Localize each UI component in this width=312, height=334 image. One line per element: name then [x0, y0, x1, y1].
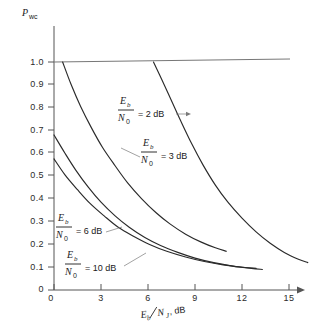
- annotation-2db-numerator: E: [119, 95, 126, 106]
- curve-6db: [54, 135, 262, 270]
- annotation-6db-denominator-subscript: 0: [64, 235, 68, 242]
- y-tick-label-7: 0.7: [30, 125, 44, 135]
- curve-2db: [153, 62, 307, 263]
- x-axis-arrow-icon: [297, 287, 305, 294]
- x-axis-tick-labels: 0 3 6 9 12 15: [48, 293, 294, 303]
- annotation-3db-value: = 3 dB: [161, 151, 187, 161]
- x-axis-ticks: [54, 284, 289, 290]
- annotation-10db-numerator-subscript: b: [74, 255, 78, 263]
- x-axis-title-unit: , dB: [169, 305, 186, 317]
- annotation-3db-leader: [121, 148, 140, 157]
- y-axis-label-subscript: wc: [28, 13, 38, 20]
- annotation-6db: E b N 0 = 6 dB: [55, 212, 122, 242]
- y-tick-label-2: 0.2: [30, 239, 44, 249]
- x-tick-label-0: 0: [48, 293, 53, 303]
- y-tick-label-4: 0.4: [30, 193, 44, 203]
- annotation-10db-denominator: N: [64, 266, 73, 277]
- annotation-10db-value: = 10 dB: [85, 263, 116, 273]
- curve-10db: [54, 159, 256, 268]
- annotation-10db-numerator: E: [66, 249, 73, 260]
- y-tick-label-1: 0.1: [30, 262, 44, 272]
- y-tick-label-6: 0.6: [30, 147, 44, 157]
- x-tick-label-9: 9: [192, 293, 197, 303]
- annotation-2db-value: = 2 dB: [138, 109, 164, 119]
- annotation-3db-numerator-subscript: b: [150, 143, 154, 151]
- y-axis-label-symbol: P: [21, 7, 28, 18]
- annotation-6db-value: = 6 dB: [76, 226, 102, 236]
- y-axis-tick-labels: 1.0 0.9 0.8 0.7 0.6 0.5 0.4 0.3 0.2 0.1 …: [30, 57, 44, 294]
- annotation-3db: E b N 0 = 3 dB: [121, 137, 187, 167]
- x-tick-label-15: 15: [284, 293, 295, 303]
- y-tick-label-8: 0.8: [30, 102, 44, 112]
- annotation-2db-denominator: N: [117, 112, 126, 123]
- annotation-6db-numerator-subscript: b: [65, 218, 69, 226]
- x-tick-label-3: 3: [98, 293, 103, 303]
- annotation-10db-leader: [124, 253, 146, 266]
- x-axis-title: E b N J , dB: [139, 304, 186, 324]
- y-tick-label-5: 0.5: [30, 170, 44, 180]
- reference-line-1.0: [54, 59, 290, 62]
- x-axis-title-numerator-subscript: b: [147, 314, 152, 322]
- annotation-6db-numerator: E: [57, 212, 64, 223]
- y-tick-label-0: 0: [39, 284, 44, 294]
- y-axis-ticks: [48, 62, 54, 267]
- annotation-3db-denominator: N: [140, 154, 149, 165]
- curves-group: [54, 62, 308, 269]
- y-axis-label: P wc: [21, 7, 38, 20]
- y-tick-label-3: 0.3: [30, 216, 44, 226]
- worst-case-error-probability-chart: P wc 1.0 0.9 0.8 0.7 0.6 0.5 0.4 0.3 0.2…: [0, 0, 312, 334]
- annotation-6db-denominator: N: [55, 229, 64, 240]
- annotation-3db-numerator: E: [142, 137, 149, 148]
- y-tick-label-10: 1.0: [30, 57, 44, 67]
- annotation-10db-denominator-subscript: 0: [73, 272, 77, 279]
- annotation-2db-arrow-icon: [186, 112, 191, 116]
- annotation-2db-denominator-subscript: 0: [126, 118, 130, 125]
- annotation-10db: E b N 0 = 10 dB: [64, 249, 146, 279]
- y-tick-label-9: 0.9: [30, 79, 44, 89]
- x-tick-label-12: 12: [237, 293, 248, 303]
- annotation-6db-leader: [106, 227, 122, 232]
- x-tick-label-6: 6: [145, 293, 150, 303]
- annotation-3db-denominator-subscript: 0: [149, 160, 153, 167]
- annotation-2db-numerator-subscript: b: [127, 101, 131, 109]
